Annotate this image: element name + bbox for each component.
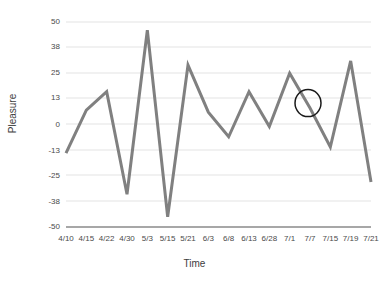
x-tick-7-1: 7/1 <box>284 234 295 243</box>
y-axis-title: Pleasure <box>7 79 18 149</box>
data-series-line <box>66 30 371 217</box>
x-tick-6-13: 6/13 <box>241 234 257 243</box>
x-tick-4-22: 4/22 <box>99 234 115 243</box>
y-tick-13: 13 <box>34 93 60 102</box>
x-tick-7-21: 7/21 <box>363 234 379 243</box>
x-tick-7-15: 7/15 <box>323 234 339 243</box>
y-tick-neg13: -13 <box>34 146 60 155</box>
chart-container: 503825130-13-25-38-50 4/104/154/224/305/… <box>0 0 389 281</box>
x-tick-6-28: 6/28 <box>262 234 278 243</box>
y-tick-25: 25 <box>34 68 60 77</box>
y-tick-0: 0 <box>34 120 60 129</box>
y-tick-neg25: -25 <box>34 171 60 180</box>
x-tick-5-3: 5/3 <box>142 234 153 243</box>
x-tick-7-7: 7/7 <box>304 234 315 243</box>
y-tick-38: 38 <box>34 42 60 51</box>
x-axis-title: Time <box>0 258 389 269</box>
x-tick-4-30: 4/30 <box>119 234 135 243</box>
x-tick-4-10: 4/10 <box>58 234 74 243</box>
x-tick-5-15: 5/15 <box>160 234 176 243</box>
y-tick-neg38: -38 <box>34 197 60 206</box>
x-tick-6-3: 6/3 <box>203 234 214 243</box>
y-tick-neg50: -50 <box>34 222 60 231</box>
x-tick-4-15: 4/15 <box>79 234 95 243</box>
x-tick-7-19: 7/19 <box>343 234 359 243</box>
x-tick-6-8: 6/8 <box>223 234 234 243</box>
x-tick-5-21: 5/21 <box>180 234 196 243</box>
y-tick-50: 50 <box>34 17 60 26</box>
